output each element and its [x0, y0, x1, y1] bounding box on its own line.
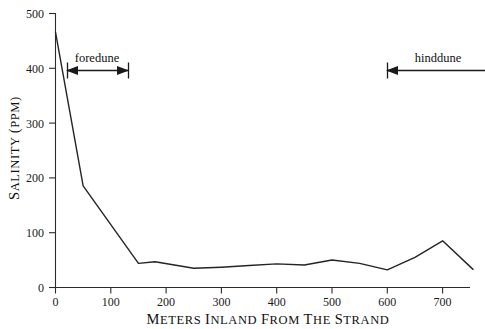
y-tick-label: 100	[26, 226, 44, 240]
x-axis-title-part-cap: M	[147, 311, 161, 327]
y-axis-tick-labels: 500 400 300 200 100 0	[26, 7, 44, 295]
x-axis-title-part-cap: S	[335, 311, 344, 327]
x-tick-label: 300	[212, 295, 230, 309]
x-axis-title-part-rest: TRAND	[343, 313, 389, 327]
y-tick-label: 0	[38, 281, 44, 295]
annotation-foredune-label: foredune	[75, 51, 120, 65]
x-axis-title-part-rest: HE	[313, 313, 331, 327]
chart-figure: 500 400 300 200 100 0 0 100 200 300 400 …	[0, 0, 485, 329]
x-tick-label: 100	[102, 295, 120, 309]
y-axis-ticks	[49, 14, 55, 288]
x-tick-label: 500	[323, 295, 341, 309]
y-tick-label: 500	[26, 7, 44, 21]
annotation-hinddune: hinddune	[386, 51, 485, 79]
salinity-line-chart: 500 400 300 200 100 0 0 100 200 300 400 …	[0, 0, 485, 329]
y-axis-title-part-cap: S	[6, 191, 22, 200]
y-axis-title-part-rest: PPM)	[8, 96, 22, 128]
y-tick-label: 400	[26, 62, 44, 76]
x-axis-ticks	[56, 288, 443, 294]
annotation-foredune: foredune	[66, 51, 129, 79]
x-tick-label: 700	[434, 295, 452, 309]
svg-text:METERS INLAND FROM THE STR: METERS INLAND FROM THE STRAND	[147, 311, 390, 327]
y-axis-title: SALINITY (PPM)	[6, 96, 23, 200]
x-tick-label: 0	[53, 295, 59, 309]
x-tick-label: 200	[157, 295, 175, 309]
x-axis-title-part-cap: F	[261, 311, 270, 327]
y-tick-label: 300	[26, 117, 44, 131]
x-axis-tick-labels: 0 100 200 300 400 500 600 700	[53, 295, 452, 309]
x-axis-title-part-rest: NLAND	[210, 313, 257, 327]
arrow-right-icon	[117, 66, 129, 75]
x-axis-title-part-cap: T	[304, 311, 313, 327]
x-axis-title-part-rest: ROM	[270, 313, 300, 327]
y-axis-title-part-rest: ALINITY	[8, 137, 22, 191]
x-tick-label: 600	[378, 295, 396, 309]
x-axis-title-part-rest: ETERS	[160, 313, 201, 327]
x-tick-label: 400	[268, 295, 286, 309]
annotation-hinddune-label: hinddune	[415, 51, 462, 65]
x-axis-title: METERS INLAND FROM THE STRAND	[147, 311, 390, 327]
y-tick-label: 200	[26, 171, 44, 185]
svg-text:SALINITY (PPM): SALINITY (PPM)	[6, 96, 23, 200]
